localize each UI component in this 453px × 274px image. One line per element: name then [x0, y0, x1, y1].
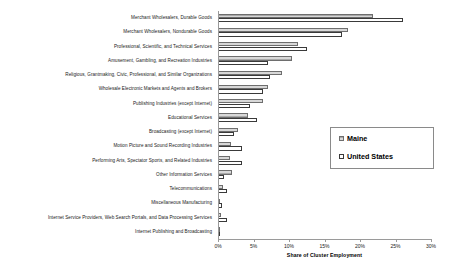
x-tick: [431, 239, 432, 242]
x-tick: [254, 239, 255, 242]
legend-label-maine: Maine: [347, 134, 367, 143]
x-tick: [218, 239, 219, 242]
bar-united-states: [218, 146, 242, 150]
category-label: Motion Picture and Sound Recording Indus…: [0, 143, 212, 148]
bar-united-states: [218, 75, 270, 79]
x-tick-label: 15%: [319, 243, 329, 249]
bar-group: [218, 68, 431, 82]
category-label: Merchant Wholesalers, Durable Goods: [0, 15, 212, 20]
category-label: Internet Publishing and Broadcasting: [0, 229, 212, 234]
bar-united-states: [218, 189, 227, 193]
x-tick-label: 20%: [355, 243, 365, 249]
bar-united-states: [218, 18, 403, 22]
category-label: Professional, Scientific, and Technical …: [0, 44, 212, 49]
bar-group: [218, 111, 431, 125]
bar-group: [218, 97, 431, 111]
bar-group: [218, 225, 431, 239]
x-tick: [396, 239, 397, 242]
category-label: Religious, Grantmaking, Civic, Professio…: [0, 72, 212, 77]
legend-item-united-states: United States: [339, 152, 433, 161]
legend-swatch-united-states-icon: [339, 154, 344, 159]
category-label: Internet Service Providers, Web Search P…: [0, 215, 212, 220]
x-tick: [289, 239, 290, 242]
bar-united-states: [218, 104, 250, 108]
category-axis-labels: Merchant Wholesalers, Durable GoodsMerch…: [0, 11, 215, 239]
bar-chart: Merchant Wholesalers, Durable GoodsMerch…: [0, 0, 453, 274]
x-axis-title: Share of Cluster Employment: [218, 252, 431, 258]
bar-group: [218, 11, 431, 25]
category-label: Miscellaneous Manufacturing: [0, 200, 212, 205]
bar-united-states: [218, 218, 227, 222]
bar-united-states: [218, 32, 342, 36]
legend: Maine United States: [330, 127, 434, 169]
category-label: Other Information Services: [0, 172, 212, 177]
bar-group: [218, 182, 431, 196]
bar-group: [218, 54, 431, 68]
x-tick-label: 0%: [214, 243, 221, 249]
x-tick: [325, 239, 326, 242]
legend-swatch-maine-icon: [339, 136, 344, 141]
bar-group: [218, 168, 431, 182]
category-label: Performing Arts, Spectator Sports, and R…: [0, 158, 212, 163]
legend-label-united-states: United States: [347, 152, 393, 161]
bar-united-states: [218, 89, 263, 93]
legend-item-maine: Maine: [339, 134, 433, 143]
bar-group: [218, 25, 431, 39]
bar-united-states: [218, 47, 307, 51]
x-tick-label: 10%: [284, 243, 294, 249]
x-tick-label: 30%: [426, 243, 436, 249]
bar-group: [218, 196, 431, 210]
category-label: Wholesale Electronic Markets and Agents …: [0, 86, 212, 91]
bar-group: [218, 211, 431, 225]
category-label: Publishing Industries (except Internet): [0, 101, 212, 106]
bar-united-states: [218, 161, 242, 165]
y-axis-line: [218, 11, 219, 239]
x-tick-label: 25%: [390, 243, 400, 249]
bar-group: [218, 82, 431, 96]
bar-group: [218, 40, 431, 54]
bar-united-states: [218, 132, 234, 136]
plot-area: [218, 11, 431, 239]
category-label: Telecommunications: [0, 186, 212, 191]
x-tick-label: 5%: [250, 243, 257, 249]
category-label: Merchant Wholesalers, Nondurable Goods: [0, 29, 212, 34]
bar-united-states: [218, 118, 257, 122]
x-tick: [360, 239, 361, 242]
category-label: Broadcasting (except Internet): [0, 129, 212, 134]
bar-united-states: [218, 61, 268, 65]
category-label: Amusement, Gambling, and Recreation Indu…: [0, 58, 212, 63]
category-label: Educational Services: [0, 115, 212, 120]
